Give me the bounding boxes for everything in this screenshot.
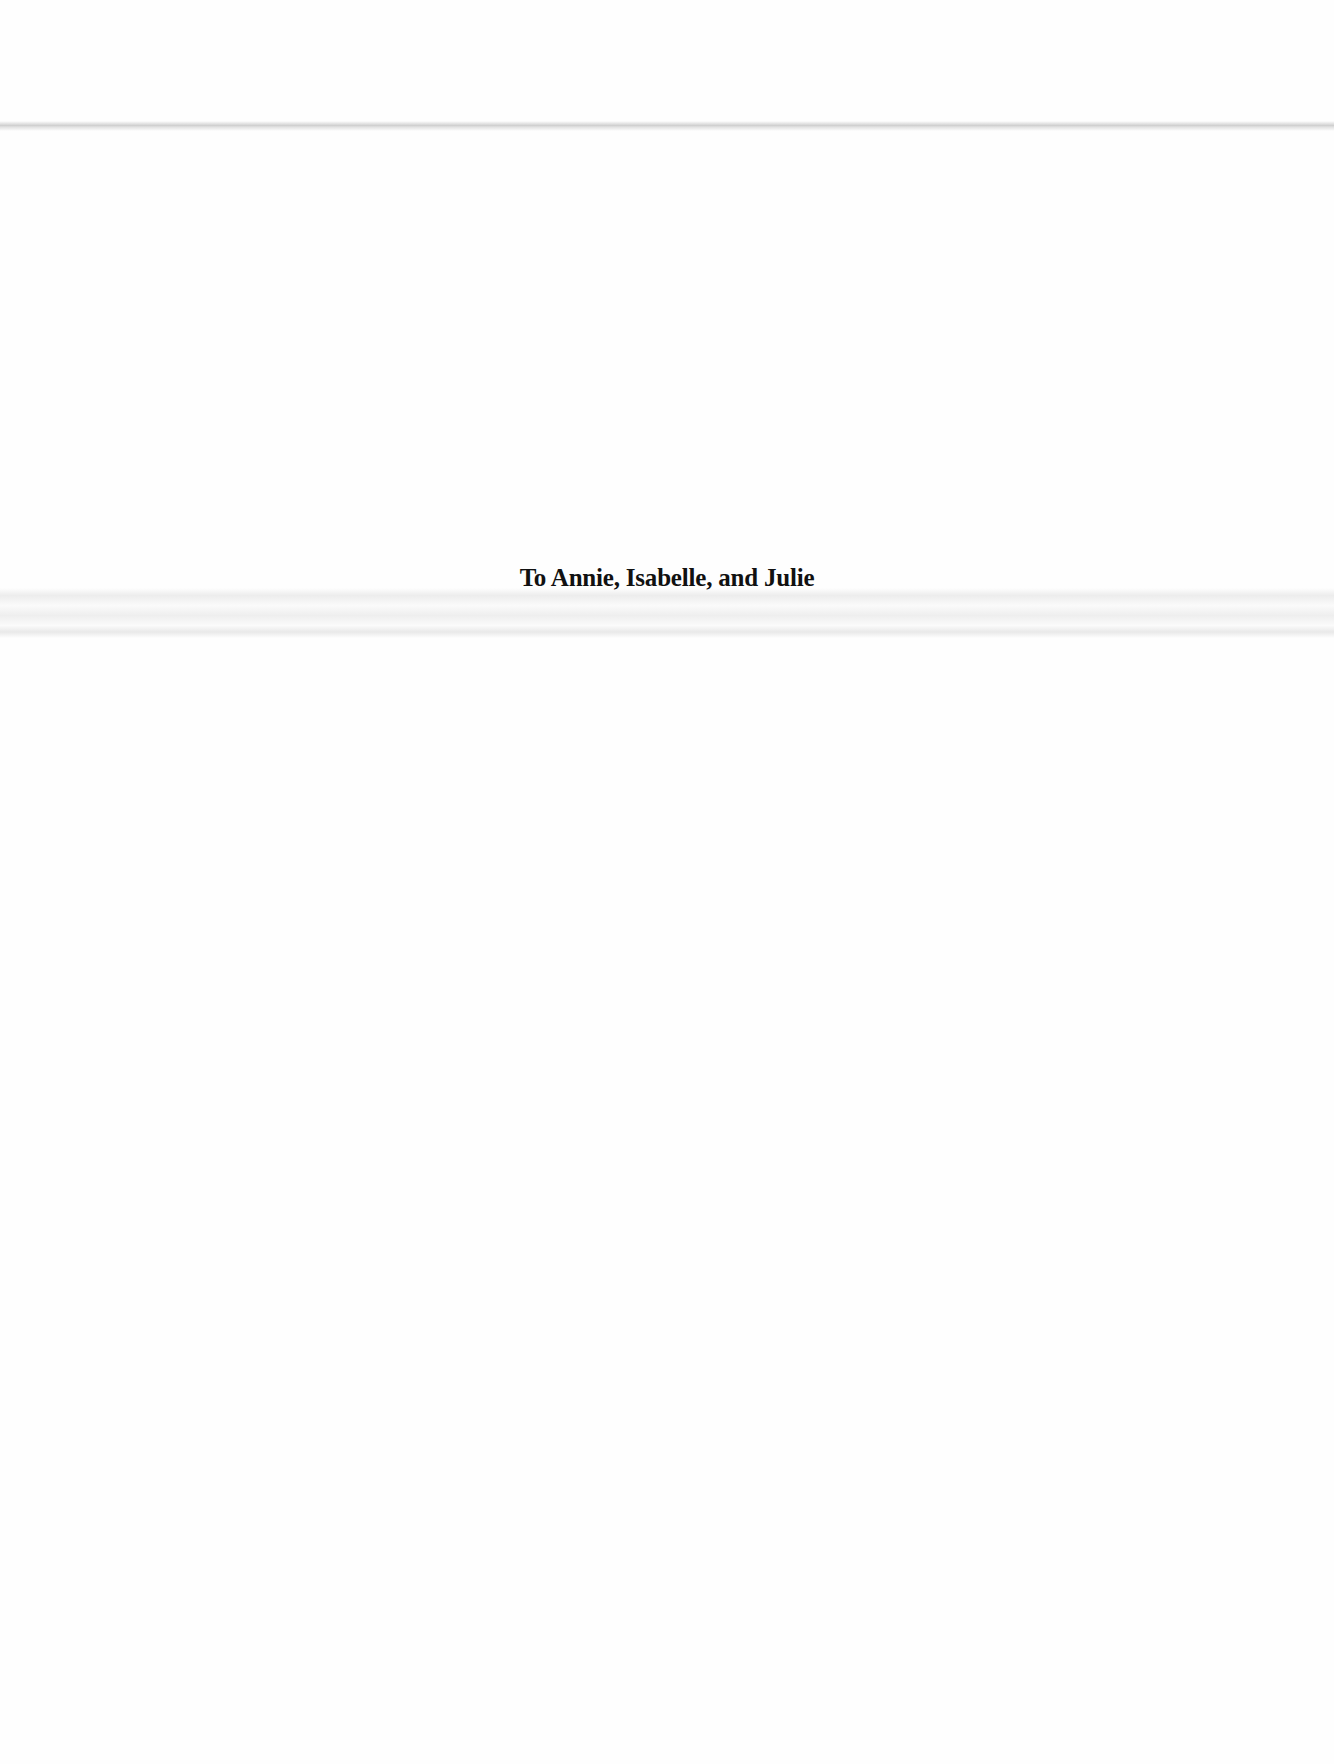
dedication-text: To Annie, Isabelle, and Julie bbox=[0, 564, 1334, 592]
scan-artifact-middle-band bbox=[0, 588, 1334, 638]
dedication-page: To Annie, Isabelle, and Julie bbox=[0, 0, 1334, 1764]
scan-artifact-top-band bbox=[0, 121, 1334, 131]
